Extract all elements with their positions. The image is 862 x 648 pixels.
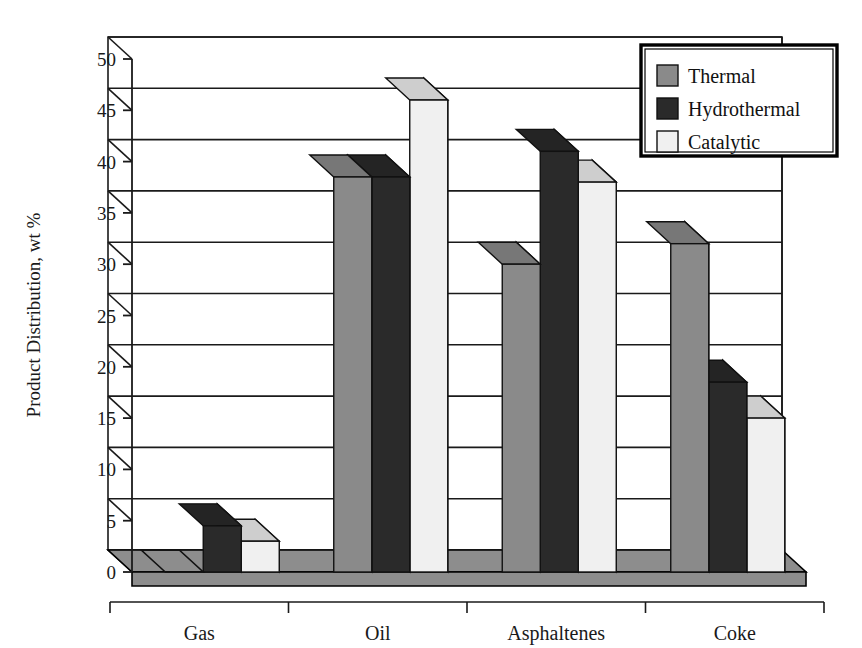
y-axis-tick-label: 40 xyxy=(97,152,116,173)
legend-label-hydrothermal: Hydrothermal xyxy=(688,98,801,121)
x-axis-category-label: Gas xyxy=(184,622,215,644)
bar-front-face xyxy=(241,541,279,572)
y-axis-tick-label: 20 xyxy=(97,357,116,378)
y-axis-title: Product Distribution, wt % xyxy=(23,212,44,417)
y-axis-tick-label: 0 xyxy=(107,562,117,583)
bar-front-face xyxy=(372,177,410,572)
bar-front-face xyxy=(671,244,709,572)
x-axis-category-label: Coke xyxy=(714,622,756,644)
y-axis-tick-label: 30 xyxy=(97,254,116,275)
legend-label-thermal: Thermal xyxy=(688,65,756,87)
bar-front-face xyxy=(334,177,372,572)
bar-front-face xyxy=(747,418,785,572)
x-axis-category-label: Oil xyxy=(365,622,391,644)
bar-front-face xyxy=(410,100,448,572)
y-axis-tick-label: 50 xyxy=(97,49,116,70)
chart-canvas: 05101520253035404550GasOilAsphaltenesCok… xyxy=(0,0,862,648)
y-axis-tick-label: 45 xyxy=(97,100,116,121)
bar-front-face xyxy=(709,382,747,572)
y-axis-tick-label: 15 xyxy=(97,408,116,429)
bar-front-face xyxy=(578,182,616,572)
y-axis-tick-label: 10 xyxy=(97,459,116,480)
bar-chart: 05101520253035404550GasOilAsphaltenesCok… xyxy=(0,0,862,648)
y-axis-tick-label: 25 xyxy=(97,306,116,327)
y-axis-tick-label: 35 xyxy=(97,203,116,224)
y-axis-tick-label: 5 xyxy=(107,511,117,532)
floor-front xyxy=(132,572,806,586)
legend-swatch-hydrothermal xyxy=(657,98,678,119)
x-axis-category-label: Asphaltenes xyxy=(507,622,605,645)
bar-front-face xyxy=(203,526,241,572)
legend: ThermalHydrothermalCatalytic xyxy=(641,45,837,156)
legend-swatch-catalytic xyxy=(657,131,678,152)
legend-label-catalytic: Catalytic xyxy=(688,131,760,154)
legend-swatch-thermal xyxy=(657,65,678,86)
bar-front-face xyxy=(540,151,578,572)
bar-front-face xyxy=(502,264,540,572)
